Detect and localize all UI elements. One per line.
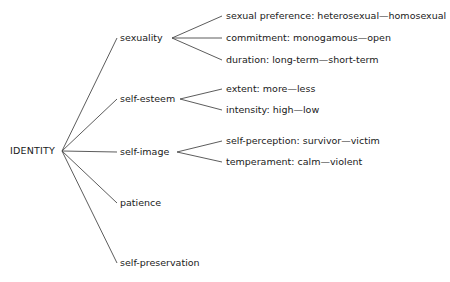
edge-sexuality-to-sexual-preference-heterosexual-homosexual [172,16,222,38]
branch-node-self-image: self-image [120,147,169,157]
edge-self-image-to-temperament-calm-violent [177,152,222,162]
edge-root-to-self-preservation [62,151,117,263]
edge-root-to-patience [62,151,117,203]
leaf-node-duration-long-term-short-term: duration: long-term—short-term [226,55,379,65]
branch-node-sexuality: sexuality [120,33,163,43]
branch-node-self-preservation: self-preservation [120,258,200,268]
branch-node-self-esteem: self-esteem [120,94,175,104]
root-node-identity: IDENTITY [10,146,55,156]
edge-root-to-sexuality [62,38,117,151]
edge-self-image-to-self-perception-survivor-victim [177,141,222,152]
leaf-node-sexual-preference-heterosexual-homosexual: sexual preference: heterosexual—homosexu… [226,11,446,21]
branch-node-patience: patience [120,198,161,208]
leaf-node-self-perception-survivor-victim: self-perception: survivor—victim [226,136,380,146]
edge-root-to-self-image [62,151,117,152]
leaf-node-extent-more-less: extent: more—less [226,84,315,94]
identity-tree-diagram: IDENTITYsexualitysexual preference: hete… [0,0,450,282]
leaf-node-temperament-calm-violent: temperament: calm—violent [226,157,362,167]
leaf-node-commitment-monogamous-open: commitment: monogamous—open [226,33,391,43]
edge-self-esteem-to-intensity-high-low [180,99,222,110]
leaf-node-intensity-high-low: intensity: high—low [226,105,319,115]
edge-sexuality-to-duration-long-term-short-term [172,38,222,60]
edge-self-esteem-to-extent-more-less [180,89,222,99]
edge-root-to-self-esteem [62,99,117,151]
